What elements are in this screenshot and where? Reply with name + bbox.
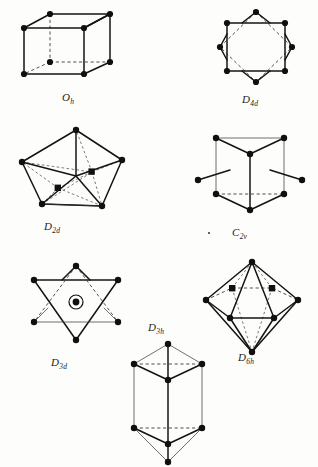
caption-d4d-sub: 4d	[250, 99, 258, 108]
d6h-pyramid-edges	[206, 262, 298, 352]
caption-d3h: D3h	[148, 321, 164, 336]
caption-d2d-label: D	[44, 220, 52, 232]
caption-d4d-label: D	[242, 93, 250, 105]
figure-sheet: Oh	[0, 0, 318, 467]
d6h-vertices	[203, 259, 301, 355]
d3d-front-triangle	[34, 280, 118, 340]
caption-d3d: D3d	[51, 356, 67, 371]
d4d-visible-square	[227, 23, 285, 71]
caption-oh-label: O	[62, 91, 70, 103]
caption-d3d-label: D	[51, 356, 59, 368]
polyhedron-d3d	[22, 260, 130, 352]
caption-d3h-label: D	[148, 321, 156, 333]
caption-d6h: D6h	[238, 351, 254, 366]
d3d-center-atom	[69, 295, 83, 309]
caption-c2v: C2v	[232, 226, 247, 241]
d4d-vertices	[217, 9, 295, 85]
polyhedron-d3h	[124, 340, 216, 466]
oh-hidden-edges	[24, 14, 110, 74]
d2d-vertices	[19, 127, 125, 209]
caption-d6h-label: D	[238, 351, 246, 363]
polyhedron-d2d	[14, 124, 150, 214]
d3h-top-cap	[134, 344, 202, 380]
polyhedron-oh	[14, 4, 144, 86]
d2d-outline	[22, 130, 122, 206]
caption-d2d-sub: 2d	[52, 226, 60, 235]
caption-oh-sub: h	[70, 97, 74, 106]
d6h-hidden-edges	[206, 262, 298, 352]
caption-c2v-label: C	[232, 226, 240, 238]
d3d-star-edges	[34, 266, 118, 322]
caption-d3d-sub: 3d	[59, 362, 67, 371]
caption-d3h-sub: 3h	[156, 327, 164, 336]
caption-oh: Oh	[62, 91, 74, 106]
c2v-edges	[216, 138, 284, 210]
caption-d4d: D4d	[242, 93, 258, 108]
polyhedron-c2v	[190, 128, 310, 220]
print-speck	[208, 232, 210, 234]
caption-d2d: D2d	[44, 220, 60, 235]
d3d-back-triangle	[34, 266, 118, 322]
polyhedron-d4d	[204, 6, 308, 88]
caption-c2v-sub: 2v	[240, 232, 247, 241]
caption-d6h-sub: 6h	[246, 357, 254, 366]
oh-visible-edges	[24, 14, 110, 74]
polyhedron-d6h	[196, 258, 308, 358]
